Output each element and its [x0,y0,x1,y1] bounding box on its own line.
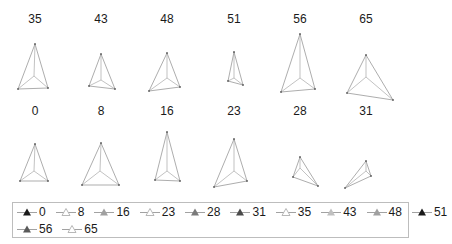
triangle-glyph-51 [227,51,244,86]
legend-item-65: 65 [62,222,97,236]
triangle-glyph-35 [17,43,49,90]
panel-title: 0 [32,104,39,118]
vertex-marker [47,87,49,89]
vertex-marker [100,53,102,55]
vertex-marker [370,175,372,177]
panel-title: 28 [293,104,307,118]
vertex-marker [365,54,367,56]
legend-item-0: 0 [17,205,46,219]
vertex-marker [346,92,348,94]
legend-row-2: 5665 [17,221,108,237]
vertex-marker [299,33,301,35]
legend: 081623283135434851 5665 [12,202,409,238]
triangle-glyph-0 [19,143,49,182]
filled-triangle-icon [17,223,37,235]
triangle-spoke [234,171,247,181]
vertex-marker [154,179,156,181]
vertex-marker [392,99,394,101]
vertex-marker [100,142,102,144]
filled-triangle-icon [185,206,205,218]
triangle-outline [293,157,318,186]
open-triangle-icon [140,206,160,218]
vertex-marker [292,176,294,178]
vertex-marker [118,184,120,186]
vertex-marker [233,138,235,140]
triangle-glyph-48 [148,52,181,92]
triangle-glyph-65 [346,54,394,101]
vertex-marker [47,180,49,182]
legend-label: 43 [343,205,356,219]
panel-title: 23 [227,104,241,118]
filled-triangle-icon [17,206,37,218]
triangle-glyph-23 [213,138,248,188]
vertex-marker [344,187,346,189]
open-triangle-icon [62,223,82,235]
triangle-spoke [34,144,35,171]
legend-label: 51 [434,205,447,219]
vertex-marker [179,86,181,88]
vertex-marker [280,91,282,93]
filled-triangle-icon [230,206,250,218]
triangle-spoke [82,171,100,185]
filled-triangle-icon [321,206,341,218]
legend-item-35: 35 [276,205,311,219]
vertex-marker [299,156,301,158]
vertex-marker [317,185,319,187]
filled-triangle-icon [412,206,432,218]
triangle-spoke [228,78,234,81]
legend-label: 65 [84,222,97,236]
vertex-marker [233,51,235,53]
vertex-marker [179,180,181,182]
legend-item-31: 31 [230,205,265,219]
legend-label: 35 [298,205,311,219]
filled-triangle-icon [94,206,114,218]
vertex-marker [227,80,229,82]
open-triangle-icon [276,206,296,218]
legend-item-16: 16 [94,205,129,219]
triangle-spoke [34,44,35,76]
legend-item-8: 8 [56,205,85,219]
vertex-marker [213,186,215,188]
triangle-outline [155,132,180,181]
open-triangle-icon [56,206,76,218]
vertex-marker [148,90,150,92]
legend-label: 8 [78,205,85,219]
triangle-spoke [281,78,300,92]
triangle-outline [345,161,371,188]
triangle-outline [214,139,247,187]
panel-title: 56 [293,12,307,26]
chart-canvas: 3543485156650816232831 [0,0,413,200]
triangle-glyph-43 [88,53,116,90]
legend-label: 56 [39,222,52,236]
triangle-outline [149,53,180,91]
legend-label: 0 [39,205,46,219]
legend-label: 23 [162,205,175,219]
triangle-spoke [347,77,366,93]
panel-title: 48 [160,12,174,26]
legend-label: 31 [252,205,265,219]
triangle-spoke [293,168,300,177]
triangle-glyph-16 [154,131,181,182]
legend-label: 16 [116,205,129,219]
triangle-glyphs [17,33,394,189]
vertex-marker [19,180,21,182]
legend-item-51: 51 [412,205,447,219]
legend-label: 48 [389,205,402,219]
panel-title: 65 [359,12,373,26]
vertex-marker [81,184,83,186]
panel-title: 51 [227,12,241,26]
triangle-glyph-31 [344,160,372,189]
legend-item-56: 56 [17,222,52,236]
vertex-marker [34,143,36,145]
triangle-spoke [100,143,101,171]
vertex-marker [114,88,116,90]
vertex-marker [17,88,19,90]
vertex-marker [34,43,36,45]
vertex-marker [166,52,168,54]
vertex-marker [365,160,367,162]
triangle-glyph-28 [292,156,319,187]
triangle-spoke [300,168,318,186]
legend-item-23: 23 [140,205,175,219]
triangle-outline [18,44,48,89]
filled-triangle-icon [367,206,387,218]
